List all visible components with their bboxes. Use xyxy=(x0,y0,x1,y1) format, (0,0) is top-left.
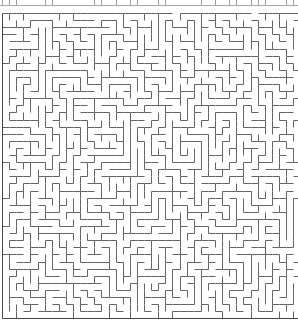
maze-viewport xyxy=(0,0,298,320)
maze-canvas xyxy=(0,0,298,320)
